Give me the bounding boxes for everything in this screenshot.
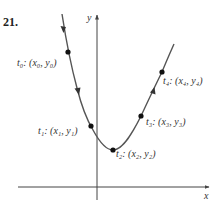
direction-arrow-icon [75,88,81,96]
point-t3-dot [138,113,143,118]
point-t1-dot [88,123,93,128]
point-t1-label: t₁: (x₁, y₁) [38,125,78,137]
point-t4-label: t₄: (x₄, y₄) [163,75,203,87]
parametric-curve [62,14,174,150]
point-t4-dot [159,69,164,74]
point-t0-label: t₀: (x₀, y₀) [17,57,57,69]
point-t0-dot [65,49,70,54]
y-axis-label: y [86,12,92,23]
parametric-curve-diagram: 21. x y t₀: (x₀, y₀) t₁: (x₁, y₁) t₂: (x… [0,0,218,200]
point-t2-label: t₂: (x₂, y₂) [116,148,156,160]
problem-number: 21. [3,15,18,29]
point-t3-label: t₃: (x₃, y₃) [146,116,186,128]
point-t2-dot [110,147,115,152]
x-axis-label: x [203,190,209,200]
